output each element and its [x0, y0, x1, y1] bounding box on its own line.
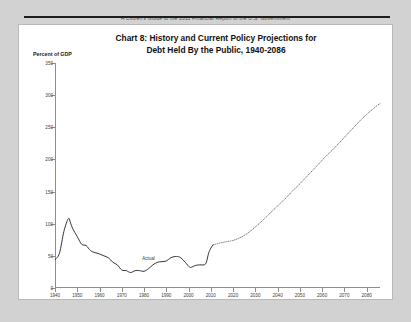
x-tick-label: 1940: [50, 293, 60, 298]
x-tick-mark: [278, 288, 279, 292]
x-tick-mark: [211, 288, 212, 292]
x-tick-label: 2030: [250, 293, 260, 298]
y-tick-label: 0: [50, 286, 53, 291]
y-axis-unit-label: Percent of GDP: [33, 51, 72, 57]
x-tick-label: 1960: [94, 293, 104, 298]
x-tick-mark: [100, 288, 101, 292]
y-tick-label: 150: [45, 189, 53, 194]
x-tick-label: 2050: [295, 293, 305, 298]
x-tick-mark: [189, 288, 190, 292]
y-tick-label: 50: [48, 253, 53, 258]
y-tick-label: 350: [45, 61, 53, 66]
x-tick-label: 2080: [362, 293, 372, 298]
x-tick-label: 2060: [317, 293, 327, 298]
x-tick-mark: [300, 288, 301, 292]
chart-title-line-2: Debt Held By the Public, 1940-2086: [71, 45, 361, 57]
x-tick-label: 1950: [72, 293, 82, 298]
x-tick-mark: [77, 288, 78, 292]
document-running-header: A Citizen's Guide to the 2011 Financial …: [0, 6, 411, 24]
x-tick-mark: [166, 288, 167, 292]
y-tick-label: 200: [45, 157, 53, 162]
series-line-actual: [55, 218, 213, 272]
y-tick-label: 100: [45, 221, 53, 226]
chart-panel: Chart 8: History and Current Policy Proj…: [18, 24, 393, 300]
header-divider-rule: [24, 16, 390, 18]
x-tick-mark: [55, 288, 56, 292]
x-tick-mark: [322, 288, 323, 292]
x-tick-mark: [144, 288, 145, 292]
annotation-actual-label: Actual: [142, 255, 155, 260]
plot-area: 050100150200250300350 194019501960197019…: [55, 63, 380, 288]
x-tick-mark: [344, 288, 345, 292]
x-tick-label: 1980: [139, 293, 149, 298]
page-sheet: A Citizen's Guide to the 2011 Financial …: [0, 0, 411, 322]
x-tick-label: 2040: [272, 293, 282, 298]
x-tick-mark: [367, 288, 368, 292]
x-tick-label: 2020: [228, 293, 238, 298]
x-tick-mark: [122, 288, 123, 292]
x-tick-label: 2070: [339, 293, 349, 298]
x-tick-label: 1990: [161, 293, 171, 298]
x-tick-label: 2010: [206, 293, 216, 298]
y-tick-label: 250: [45, 125, 53, 130]
chart-title: Chart 8: History and Current Policy Proj…: [71, 33, 361, 56]
x-tick-label: 2000: [183, 293, 193, 298]
series-lines: [55, 63, 380, 288]
x-tick-label: 1970: [117, 293, 127, 298]
y-tick-label: 300: [45, 93, 53, 98]
series-line-projection: [213, 104, 380, 245]
x-tick-mark: [233, 288, 234, 292]
x-tick-mark: [255, 288, 256, 292]
chart-title-line-1: Chart 8: History and Current Policy Proj…: [71, 33, 361, 45]
